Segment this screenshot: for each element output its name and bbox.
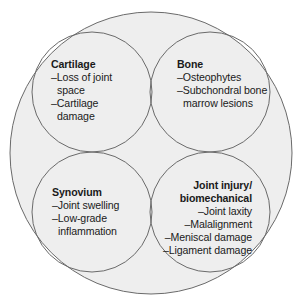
- bone-item: marrow lesions: [177, 97, 267, 110]
- synovium-item: –Low-grade: [52, 212, 119, 225]
- cartilage-label: Cartilage –Loss of joint space –Cartilag…: [51, 58, 112, 123]
- joint-injury-item: –Joint laxity: [163, 205, 252, 218]
- cartilage-item: space: [51, 84, 112, 97]
- bone-item: –Osteophytes: [177, 71, 267, 84]
- joint-injury-label: Joint injury/ biomechanical –Joint laxit…: [163, 179, 252, 257]
- cartilage-title: Cartilage: [51, 58, 112, 71]
- synovium-item: –Joint swelling: [52, 199, 119, 212]
- joint-injury-item: –Meniscal damage: [163, 231, 252, 244]
- bone-item: –Subchondral bone: [177, 84, 267, 97]
- joint-injury-item: –Ligament damage: [163, 244, 252, 257]
- bone-title: Bone: [177, 58, 267, 71]
- venn-diagram: [0, 0, 301, 307]
- cartilage-item: –Loss of joint: [51, 71, 112, 84]
- joint-injury-item: –Malalignment: [163, 218, 252, 231]
- synovium-label: Synovium –Joint swelling –Low-grade infl…: [52, 186, 119, 238]
- joint-injury-title: Joint injury/: [163, 179, 252, 192]
- cartilage-item: damage: [51, 110, 112, 123]
- synovium-item: inflammation: [52, 225, 119, 238]
- cartilage-item: –Cartilage: [51, 97, 112, 110]
- joint-injury-title: biomechanical: [163, 192, 252, 205]
- synovium-title: Synovium: [52, 186, 119, 199]
- bone-label: Bone –Osteophytes –Subchondral bone marr…: [177, 58, 267, 110]
